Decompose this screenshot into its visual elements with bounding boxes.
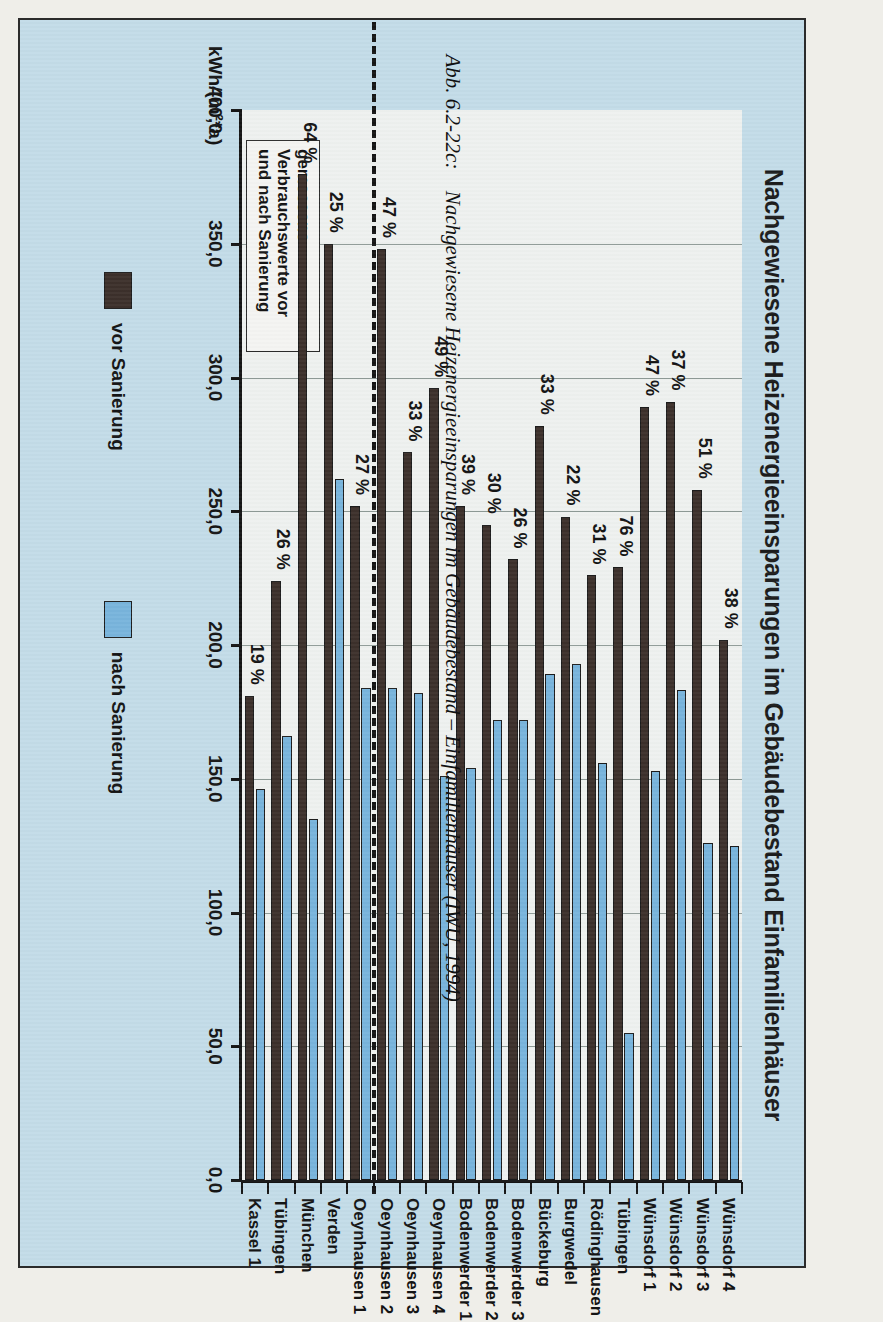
note-line-2: Verbrauchswerte vor (274, 149, 294, 343)
note-box: gemessene Verbrauchswerte vor und nach S… (246, 140, 320, 352)
bar-vor-sanierung (640, 407, 649, 1180)
bar-vor-sanierung (403, 452, 412, 1180)
bar-nach-sanierung (572, 664, 581, 1180)
bar-vor-sanierung (298, 174, 307, 1180)
bar-value-label: 25 % (325, 192, 346, 233)
bar-value-label: 26 % (509, 507, 530, 548)
bar-vor-sanierung (482, 525, 491, 1180)
figure-caption-number: Abb. 6.2-22c: (441, 55, 465, 170)
axis-tick-label: 150,0 (204, 755, 226, 803)
bar-value-label: 64 % (298, 122, 319, 163)
category-label: Oeynhausen 3 (402, 1198, 422, 1314)
bar-nach-sanierung (651, 771, 660, 1180)
category-tick (478, 1182, 480, 1194)
bar-nach-sanierung (519, 720, 528, 1180)
bar-nach-sanierung (414, 693, 423, 1180)
axis-tick-label: 400,0 (204, 86, 226, 134)
legend-label-vor-sanierung: vor Sanierung (107, 323, 129, 451)
axis-tick (231, 778, 242, 781)
legend-label-nach-sanierung: nach Sanierung (107, 652, 129, 795)
category-tick (241, 1182, 243, 1194)
bar-value-label: 37 % (667, 350, 688, 391)
bar-vor-sanierung (692, 490, 701, 1180)
category-tick (636, 1182, 638, 1194)
category-axis-spine (242, 1180, 742, 1183)
bar-nach-sanierung (730, 846, 739, 1180)
category-label: Wünsdorf 4 (718, 1198, 738, 1292)
bar-nach-sanierung (335, 479, 344, 1180)
chart-canvas: Nachgewiesene Heizenergieeinsparungen im… (20, 22, 804, 1268)
category-label: Bodenwerder 2 (481, 1198, 501, 1321)
bar-nach-sanierung (256, 789, 265, 1180)
bar-value-label: 22 % (561, 465, 582, 506)
bar-nach-sanierung (309, 819, 318, 1180)
bar-nach-sanierung (624, 1033, 633, 1180)
axis-tick-label: 0,0 (204, 1167, 226, 1193)
category-tick (320, 1182, 322, 1194)
category-label: Wünsdorf 2 (665, 1198, 685, 1292)
bar-vor-sanierung (377, 249, 386, 1180)
axis-tick-label: 100,0 (204, 889, 226, 937)
axis-tick-label: 50,0 (204, 1028, 226, 1065)
bar-vor-sanierung (350, 506, 359, 1180)
axis-tick (231, 912, 242, 915)
category-tick (267, 1182, 269, 1194)
bar-value-label: 31 % (588, 523, 609, 564)
category-tick (504, 1182, 506, 1194)
note-line-3: und nach Sanierung (254, 149, 274, 343)
bar-value-label: 27 % (351, 454, 372, 495)
axis-tick (231, 377, 242, 380)
legend-swatch-nach-sanierung (104, 601, 132, 638)
legend-swatch-vor-sanierung (104, 272, 132, 309)
bar-vor-sanierung (719, 640, 728, 1180)
bar-nach-sanierung (598, 763, 607, 1180)
bar-nach-sanierung (282, 736, 291, 1180)
bar-vor-sanierung (508, 559, 517, 1180)
bar-nach-sanierung (467, 768, 476, 1180)
category-label: Wünsdorf 1 (639, 1198, 659, 1292)
category-tick (399, 1182, 401, 1194)
bar-nach-sanierung (388, 688, 397, 1180)
bar-nach-sanierung (493, 720, 502, 1180)
legend-item-nach-sanierung: nach Sanierung (104, 601, 132, 795)
category-label: Rödinghausen (586, 1198, 606, 1316)
bar-vor-sanierung (429, 388, 438, 1180)
axis-tick (231, 243, 242, 246)
bar-vor-sanierung (245, 696, 254, 1180)
bar-vor-sanierung (613, 567, 622, 1180)
category-label: Oeynhausen 1 (349, 1198, 369, 1314)
bar-value-label: 30 % (483, 473, 504, 514)
category-tick (741, 1182, 743, 1194)
bar-nach-sanierung (545, 674, 554, 1180)
chart-title: Nachgewiesene Heizenergieeinsparungen im… (759, 22, 788, 1268)
bar-value-label: 26 % (272, 529, 293, 570)
axis-tick-label: 200,0 (204, 621, 226, 669)
figure-caption: Abb. 6.2-22c: Nachgewiesene Heizenergiee… (440, 55, 465, 1245)
chart-legend: vor Sanierung nach Sanierung (104, 272, 132, 794)
bar-value-label: 19 % (246, 644, 267, 685)
category-tick (557, 1182, 559, 1194)
bar-vor-sanierung (587, 575, 596, 1180)
figure-caption-text: Nachgewiesene Heizenergieeinsparungen im… (441, 191, 465, 1002)
axis-tick-label: 250,0 (204, 487, 226, 535)
category-tick (662, 1182, 664, 1194)
category-tick (609, 1182, 611, 1194)
axis-tick (231, 510, 242, 513)
bar-value-label: 47 % (640, 355, 661, 396)
bar-vor-sanierung (271, 581, 280, 1180)
category-tick (530, 1182, 532, 1194)
category-label: Burgwedel (560, 1198, 580, 1285)
axis-tick (231, 644, 242, 647)
axis-tick-label: 350,0 (204, 220, 226, 268)
axis-tick (231, 1045, 242, 1048)
bar-nach-sanierung (361, 688, 370, 1180)
category-label: Wünsdorf 3 (692, 1198, 712, 1292)
bar-value-label: 76 % (614, 515, 635, 556)
category-label: Verden (323, 1198, 343, 1255)
category-tick (294, 1182, 296, 1194)
bar-vor-sanierung (535, 426, 544, 1180)
category-label: Tübingen (270, 1198, 290, 1274)
category-label: Tübingen (613, 1198, 633, 1274)
bar-nach-sanierung (677, 690, 686, 1180)
axis-tick (231, 109, 242, 112)
